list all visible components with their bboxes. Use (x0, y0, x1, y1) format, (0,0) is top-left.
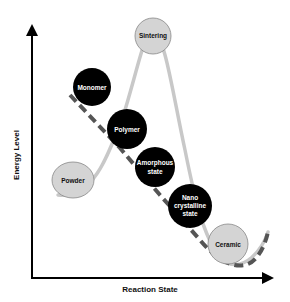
y-axis-label: Energy Level (12, 130, 21, 180)
node-powder: Powder (52, 162, 94, 198)
svg-text:Nano: Nano (182, 194, 198, 201)
svg-text:Sintering: Sintering (139, 32, 167, 40)
node-polymer: Polymer (107, 109, 147, 149)
x-axis-label: Reaction State (122, 285, 178, 294)
svg-text:crystalline: crystalline (174, 202, 207, 210)
y-axis-arrow-icon (26, 24, 38, 36)
svg-text:state: state (147, 168, 163, 175)
node-monomer: Monomer (73, 68, 111, 106)
svg-text:Monomer: Monomer (77, 84, 107, 91)
svg-text:Polymer: Polymer (114, 126, 140, 134)
node-nano-crystalline-state: Nano crystalline state (168, 184, 212, 228)
node-ceramic: Ceramic (208, 224, 248, 264)
svg-text:Ceramic: Ceramic (215, 241, 241, 248)
svg-text:Amorphous: Amorphous (137, 159, 174, 167)
energy-diagram: Energy Level Reaction State Sintering Mo… (0, 0, 290, 302)
x-axis-arrow-icon (262, 272, 274, 284)
node-amorphous-state: Amorphous state (135, 147, 175, 187)
svg-text:Powder: Powder (61, 177, 85, 184)
node-sintering: Sintering (135, 18, 171, 54)
svg-text:state: state (182, 210, 198, 217)
